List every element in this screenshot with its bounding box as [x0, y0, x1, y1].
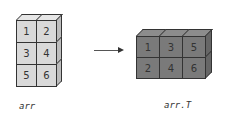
transpose-arrow — [94, 50, 120, 51]
arr-t-cell: 1 — [136, 36, 159, 57]
arr-cell: 3 — [16, 42, 36, 64]
cube-value: 3 — [16, 42, 37, 65]
cube-value: 2 — [36, 20, 57, 43]
arr-cell: 6 — [36, 64, 56, 86]
arrowhead-icon — [118, 47, 124, 53]
arr-t-cell: 3 — [159, 36, 182, 57]
arr-cell: 1 — [16, 20, 36, 42]
cube-value: 2 — [136, 57, 160, 79]
cube-value: 1 — [136, 36, 160, 58]
cube-side-face — [205, 50, 212, 79]
arr-cell: 5 — [16, 64, 36, 86]
cube-value: 4 — [159, 57, 183, 79]
cube-value: 4 — [36, 42, 57, 65]
arr-cell: 4 — [36, 42, 56, 64]
cube-value: 6 — [36, 64, 57, 87]
cube-value: 3 — [159, 36, 183, 58]
arr-cell: 2 — [36, 20, 56, 42]
cube-value: 5 — [182, 36, 206, 58]
arr-label: arr — [19, 101, 35, 111]
cube-value: 6 — [182, 57, 206, 79]
arr-transpose-label: arr.T — [164, 100, 191, 110]
arr-t-cell: 5 — [182, 36, 205, 57]
arr-t-cell: 6 — [182, 57, 205, 78]
cube-value: 1 — [16, 20, 37, 43]
arr-t-cell: 2 — [136, 57, 159, 78]
cube-value: 5 — [16, 64, 37, 87]
arr-t-cell: 4 — [159, 57, 182, 78]
